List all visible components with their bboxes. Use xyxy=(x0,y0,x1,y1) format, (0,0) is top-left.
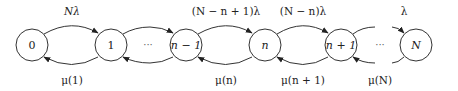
arrow-N-to-dots xyxy=(392,57,404,63)
rate-label-mu-N: μ(N) xyxy=(368,74,392,86)
ellipsis-left: ··· xyxy=(143,39,153,50)
arrow-0-to-1 xyxy=(44,26,98,34)
rate-label-lambda: λ xyxy=(401,5,408,17)
node-label: n + 1 xyxy=(326,39,356,52)
node-label: 1 xyxy=(108,39,115,52)
birth-death-diagram: 0 1 n − 1 n n + 1 N ··· ··· Nλ (N − n + … xyxy=(0,0,458,91)
diagram-svg: 0 1 n − 1 n n + 1 N ··· ··· Nλ (N − n + … xyxy=(0,0,458,91)
rate-label-N-n-lambda: (N − n)λ xyxy=(280,5,327,17)
arrow-1-to-0 xyxy=(44,57,98,65)
arrow-dots-to-1 xyxy=(123,57,150,63)
node-label: n xyxy=(261,39,268,52)
arrow-dots-to-n+1 xyxy=(353,57,375,63)
arrow-n-1-to-n xyxy=(198,26,252,34)
ellipsis-right: ··· xyxy=(375,39,385,50)
node-label: N xyxy=(410,39,421,52)
rate-label-mu-1: μ(1) xyxy=(61,74,83,86)
node-0: 0 xyxy=(16,29,48,61)
node-n-plus-1: n + 1 xyxy=(325,29,357,61)
rate-label-N-lambda: Nλ xyxy=(63,5,80,17)
node-label: n − 1 xyxy=(171,39,201,52)
arrow-n+1-to-dots xyxy=(353,27,375,34)
arrow-n-to-n+1 xyxy=(277,26,328,34)
node-n-minus-1: n − 1 xyxy=(170,29,202,61)
rate-label-mu-n-plus-1: μ(n + 1) xyxy=(281,74,325,86)
arrow-dots-to-N xyxy=(392,27,404,33)
node-label: 0 xyxy=(29,39,36,52)
rate-label-mu-n: μ(n) xyxy=(215,74,237,86)
node-n: n xyxy=(249,29,281,61)
rate-label-N-n-plus-1-lambda: (N − n + 1)λ xyxy=(192,5,261,17)
node-N: N xyxy=(400,29,432,61)
arrow-n-to-n-1 xyxy=(198,57,252,65)
arrow-n+1-to-n xyxy=(277,57,328,65)
arrow-dots-to-n-1 xyxy=(150,27,173,33)
node-1: 1 xyxy=(95,29,127,61)
arrow-1-to-dots xyxy=(123,27,150,34)
arrow-n-1-to-dots xyxy=(150,57,173,63)
